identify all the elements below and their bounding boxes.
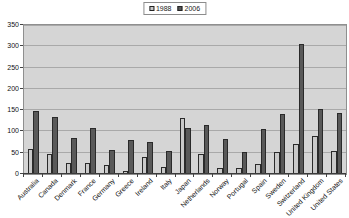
x-tick-mark bbox=[42, 174, 43, 177]
y-tick-mark bbox=[20, 45, 23, 46]
bar-2006-spain bbox=[261, 129, 267, 174]
x-tick-mark bbox=[250, 174, 251, 177]
y-tick-mark bbox=[20, 152, 23, 153]
gridline-350 bbox=[24, 25, 346, 26]
y-tick-label: 300 bbox=[0, 42, 19, 49]
y-tick-mark bbox=[20, 67, 23, 68]
bar-2006-japan bbox=[185, 128, 191, 174]
y-tick-mark bbox=[20, 130, 23, 131]
y-tick-label: 50 bbox=[0, 149, 19, 156]
y-tick-mark bbox=[20, 24, 23, 25]
x-tick-mark bbox=[326, 174, 327, 177]
y-tick-label: 100 bbox=[0, 127, 19, 134]
x-tick-mark bbox=[175, 174, 176, 177]
bar-2006-netherlands bbox=[204, 125, 210, 174]
bar-2006-sweden bbox=[280, 114, 286, 174]
x-tick-mark bbox=[269, 174, 270, 177]
y-tick-mark bbox=[20, 88, 23, 89]
bar-2006-germany bbox=[109, 150, 115, 174]
legend-label: 1988 bbox=[156, 4, 172, 13]
x-tick-mark bbox=[118, 174, 119, 177]
bar-2006-france bbox=[90, 128, 96, 174]
legend-item-1988: 1988 bbox=[149, 4, 172, 13]
x-axis-line bbox=[22, 173, 346, 174]
x-tick-mark bbox=[23, 174, 24, 177]
bar-2006-norway bbox=[223, 139, 229, 174]
x-tick-mark bbox=[288, 174, 289, 177]
x-tick-mark bbox=[345, 174, 346, 177]
bar-2006-united-kingdom bbox=[318, 109, 324, 174]
y-tick-label: 150 bbox=[0, 106, 19, 113]
x-tick-mark bbox=[231, 174, 232, 177]
y-tick-mark bbox=[20, 109, 23, 110]
legend-swatch-icon bbox=[149, 6, 154, 11]
legend-swatch-icon bbox=[178, 6, 183, 11]
x-tick-mark bbox=[61, 174, 62, 177]
bar-2006-united-states bbox=[337, 113, 343, 174]
bar-2006-greece bbox=[128, 140, 134, 174]
x-tick-mark bbox=[80, 174, 81, 177]
bar-2006-canada bbox=[52, 117, 58, 174]
x-tick-mark bbox=[212, 174, 213, 177]
bar-chart: 19882006 050100150200250300350 Australia… bbox=[0, 0, 349, 218]
plot-area bbox=[23, 24, 347, 175]
bar-2006-switzerland bbox=[299, 44, 305, 174]
x-tick-mark bbox=[99, 174, 100, 177]
bar-2006-australia bbox=[33, 111, 39, 174]
bar-2006-italy bbox=[166, 151, 172, 174]
bar-2006-denmark bbox=[71, 138, 77, 174]
legend-label: 2006 bbox=[185, 4, 201, 13]
chart-legend: 19882006 bbox=[143, 2, 206, 15]
x-tick-mark bbox=[307, 174, 308, 177]
bar-2006-portugal bbox=[242, 152, 248, 174]
y-tick-label: 200 bbox=[0, 85, 19, 92]
y-tick-label: 250 bbox=[0, 64, 19, 71]
y-tick-label: 0 bbox=[0, 170, 19, 177]
x-tick-mark bbox=[193, 174, 194, 177]
y-tick-label: 350 bbox=[0, 21, 19, 28]
legend-item-2006: 2006 bbox=[178, 4, 201, 13]
bar-2006-ireland bbox=[147, 142, 153, 174]
x-tick-mark bbox=[156, 174, 157, 177]
x-tick-mark bbox=[137, 174, 138, 177]
